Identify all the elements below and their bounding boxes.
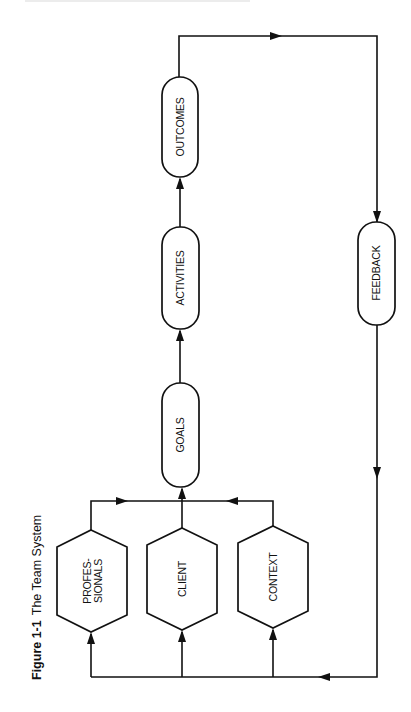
node-context-label: CONTEXT	[267, 552, 279, 602]
figure-title: The Team System	[30, 515, 44, 616]
figure-caption: Figure 1-1The Team System	[30, 515, 44, 680]
node-outcomes-label: OUTCOMES	[174, 97, 186, 156]
svg-text:Figure 1-1The Team System: Figure 1-1The Team System	[30, 515, 44, 680]
node-professionals-label-line2: SIONALS	[92, 559, 104, 603]
node-feedback: FEEDBACK	[358, 222, 395, 325]
team-system-diagram: Figure 1-1The Team System OUTCOMES ACTIV…	[0, 0, 411, 712]
arrow-up-icon	[176, 177, 184, 189]
node-goals: GOALS	[162, 383, 199, 487]
node-context: CONTEXT	[238, 526, 308, 628]
arrow-up-icon	[269, 628, 277, 640]
node-goals-label: GOALS	[174, 417, 186, 452]
figure-number: Figure 1-1	[30, 620, 44, 680]
arrow-left-icon	[226, 497, 238, 505]
arrow-up-icon	[176, 329, 184, 341]
node-outcomes: OUTCOMES	[162, 77, 198, 177]
arrow-up-icon	[87, 632, 95, 644]
arrow-right-icon	[270, 32, 282, 40]
arrow-up-icon	[178, 630, 186, 642]
arrow-left-icon	[318, 673, 330, 681]
node-client-label: CLIENT	[176, 560, 188, 597]
arrow-down-icon	[373, 467, 381, 479]
node-activities-label: ACTIVITIES	[174, 250, 186, 305]
arrow-up-icon	[178, 487, 186, 499]
edge-outcomes-feedback	[179, 36, 377, 222]
node-activities: ACTIVITIES	[162, 227, 199, 329]
node-client: CLIENT	[147, 528, 217, 630]
arrow-right-icon	[116, 497, 128, 505]
node-professionals: PROFES- SIONALS	[57, 530, 127, 632]
node-feedback-label: FEEDBACK	[370, 245, 382, 300]
